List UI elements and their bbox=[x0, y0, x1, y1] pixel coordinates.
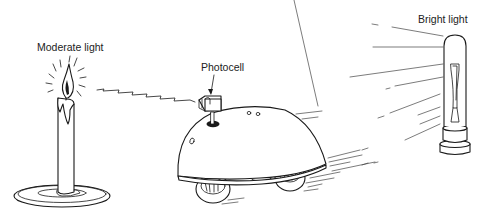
robot-icon bbox=[178, 75, 326, 203]
light-rays bbox=[350, 24, 443, 165]
diagram-stage: Moderate light Photocell Bright light bbox=[0, 0, 490, 218]
candle-icon bbox=[14, 56, 110, 207]
diagram-illustration bbox=[0, 0, 490, 218]
light-path-zigzag bbox=[97, 89, 195, 102]
photocell-icon bbox=[199, 96, 221, 111]
light-bulb-icon bbox=[440, 35, 470, 155]
